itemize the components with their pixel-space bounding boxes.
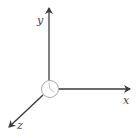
z-axis	[9, 95, 43, 127]
y-axis-label: y	[36, 14, 44, 27]
origin-icon	[42, 81, 59, 98]
coordinate-axes-diagram: y x z	[0, 0, 139, 138]
z-axis-label: z	[16, 119, 23, 132]
x-axis-label: x	[123, 94, 130, 107]
